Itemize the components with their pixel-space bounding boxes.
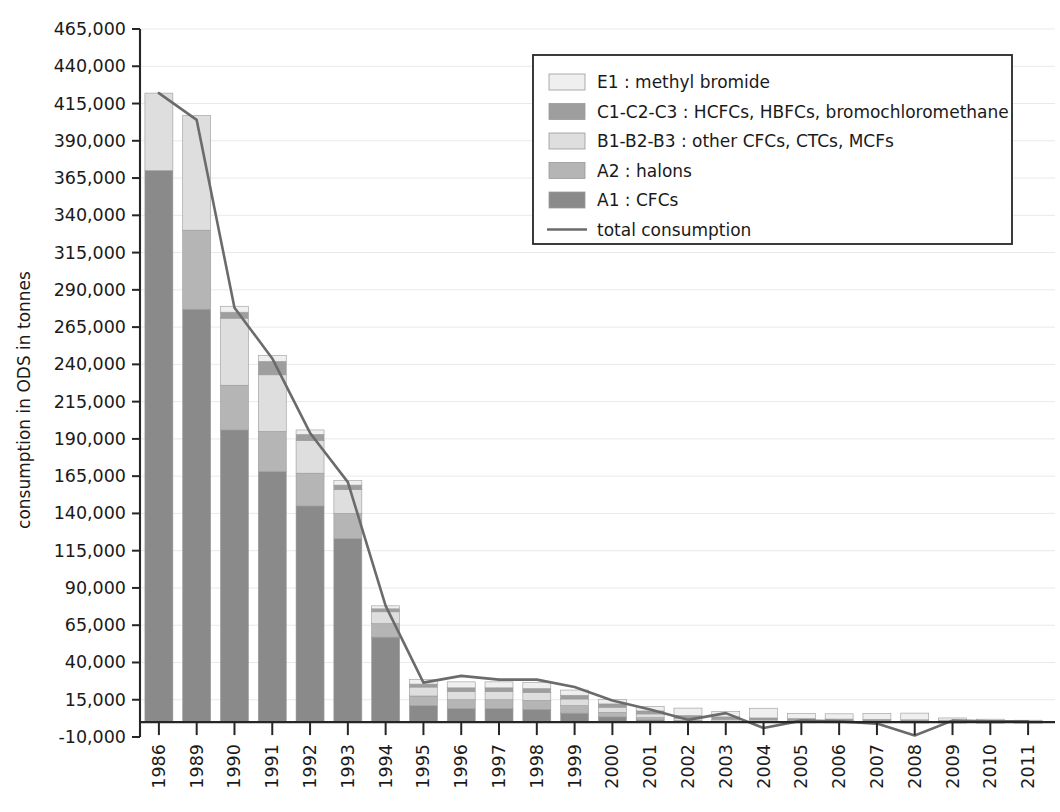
y-tick-label: 115,000	[54, 541, 126, 561]
bar-segment-b	[447, 692, 475, 700]
bar-segment-c	[750, 718, 778, 720]
bar-segment-a2	[598, 712, 626, 716]
bar-segment-e	[825, 714, 853, 719]
bar-segment-a1	[523, 709, 551, 722]
y-axis-tick-labels: 465,000440,000415,000390,000365,000340,0…	[54, 19, 126, 747]
x-tick-label: 1993	[338, 744, 358, 789]
y-tick-label: -10,000	[58, 727, 126, 747]
legend-label: A1 : CFCs	[597, 190, 678, 210]
bar-stack	[296, 430, 324, 722]
y-tick-label: 15,000	[65, 690, 126, 710]
x-tick-label: 1994	[376, 744, 396, 789]
y-axis-title-text: consumption in ODS in tonnes	[14, 271, 34, 529]
bar-stack	[145, 93, 173, 722]
bar-segment-b	[258, 375, 286, 432]
bar-segment-c	[409, 684, 437, 687]
bar-segment-e	[523, 683, 551, 689]
x-tick-label: 2003	[716, 744, 736, 789]
bar-segment-a1	[447, 709, 475, 722]
x-tick-label: 1996	[451, 744, 471, 789]
bar-segment-a2	[296, 473, 324, 506]
y-tick-label: 215,000	[54, 392, 126, 412]
y-tick-label: 190,000	[54, 429, 126, 449]
x-tick-label: 1997	[489, 744, 509, 789]
ods-consumption-stacked-bar-chart: 465,000440,000415,000390,000365,000340,0…	[0, 0, 1060, 812]
bar-segment-e	[787, 713, 815, 718]
y-tick-label: 365,000	[54, 168, 126, 188]
bar-segment-a1	[183, 309, 211, 722]
x-tick-label: 1995	[413, 744, 433, 789]
x-tick-label: 1990	[224, 744, 244, 789]
bar-segment-a2	[636, 718, 664, 720]
bar-segment-b	[523, 692, 551, 700]
bar-segment-a2	[258, 431, 286, 471]
bar-segment-a2	[409, 696, 437, 706]
legend-swatch	[549, 163, 585, 179]
legend-swatch	[549, 192, 585, 208]
x-tick-label: 1991	[262, 744, 282, 789]
bar-segment-a1	[372, 637, 400, 722]
x-axis-tick-labels: 1986198919901991199219931994199519961997…	[149, 744, 1038, 789]
bar-segment-b	[145, 93, 173, 171]
legend-swatch	[549, 133, 585, 149]
bar-stack	[183, 115, 211, 722]
bar-segment-e	[901, 713, 929, 720]
bar-stack	[409, 680, 437, 722]
bar-stack	[750, 708, 778, 722]
bar-segment-c	[447, 688, 475, 692]
x-tick-label: 2011	[1018, 744, 1038, 789]
y-tick-label: 465,000	[54, 19, 126, 39]
bar-segment-a2	[220, 385, 248, 430]
chart-figure: 465,000440,000415,000390,000365,000340,0…	[0, 0, 1060, 812]
legend-label: total consumption	[597, 220, 751, 240]
bar-stack	[447, 682, 475, 722]
bar-segment-c	[561, 695, 589, 699]
bar-segment-e	[674, 708, 702, 715]
bar-segment-c	[220, 312, 248, 318]
y-tick-label: 415,000	[54, 94, 126, 114]
x-tick-label: 1986	[149, 744, 169, 789]
legend-label: E1 : methyl bromide	[597, 72, 770, 92]
bar-segment-a1	[334, 539, 362, 722]
bar-stack	[523, 683, 551, 722]
bar-stack	[258, 355, 286, 722]
x-tick-label: 1998	[527, 744, 547, 789]
y-tick-label: 65,000	[65, 615, 126, 635]
y-tick-label: 390,000	[54, 131, 126, 151]
bar-segment-b	[636, 714, 664, 718]
bar-segment-a1	[220, 430, 248, 722]
legend-swatch	[549, 74, 585, 90]
bar-stack	[220, 306, 248, 722]
chart-legend: E1 : methyl bromideC1-C2-C3 : HCFCs, HBF…	[533, 55, 1012, 244]
bar-segment-c	[296, 434, 324, 440]
bar-segment-a2	[183, 230, 211, 309]
bar-stack	[485, 682, 513, 722]
bar-segment-a2	[485, 700, 513, 709]
y-tick-label: 165,000	[54, 466, 126, 486]
y-tick-label: 90,000	[65, 578, 126, 598]
y-tick-label: 440,000	[54, 56, 126, 76]
y-tick-label: 40,000	[65, 652, 126, 672]
bar-segment-a1	[145, 171, 173, 722]
legend-label: C1-C2-C3 : HCFCs, HBFCs, bromochlorometh…	[597, 102, 1009, 122]
x-tick-label: 2009	[943, 744, 963, 789]
bar-segment-b	[409, 687, 437, 696]
bar-segment-b	[485, 692, 513, 700]
bar-segment-a1	[485, 709, 513, 722]
bar-segment-e	[485, 682, 513, 688]
y-tick-label: 290,000	[54, 280, 126, 300]
x-tick-label: 2007	[867, 744, 887, 789]
legend-label: B1-B2-B3 : other CFCs, CTCs, MCFs	[597, 131, 894, 151]
bar-segment-c	[258, 361, 286, 374]
bar-segment-b	[220, 318, 248, 385]
x-tick-label: 1989	[187, 744, 207, 789]
bar-segment-e	[750, 708, 778, 718]
bar-segment-a1	[296, 506, 324, 722]
x-tick-label: 2008	[905, 744, 925, 789]
legend-swatch	[549, 104, 585, 120]
bar-segment-e	[447, 682, 475, 688]
x-tick-label: 2001	[640, 744, 660, 789]
y-axis-title: consumption in ODS in tonnes	[14, 271, 34, 529]
bar-segment-a1	[258, 472, 286, 722]
x-tick-label: 2002	[678, 744, 698, 789]
